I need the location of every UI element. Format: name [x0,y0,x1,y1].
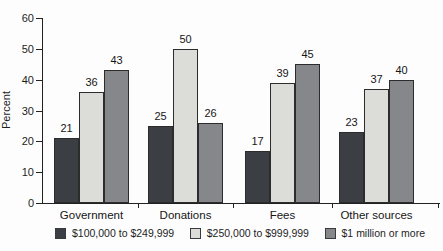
bar [54,138,79,203]
legend: $100,000 to $249,999$250,000 to $999,999… [55,227,425,239]
y-tick [36,172,42,173]
bar [148,126,173,203]
bar-value-label: 26 [194,107,227,120]
bar [173,49,198,203]
x-tick [138,203,139,208]
x-category-label: Other sources [317,209,436,222]
bar [270,83,295,203]
bar-value-label: 45 [291,48,324,61]
bar [245,151,270,203]
legend-label: $100,000 to $249,999 [72,227,174,239]
y-tick [36,111,42,112]
bar-value-label: 43 [100,54,133,67]
y-tick [36,203,42,204]
y-tick [36,18,42,19]
legend-item: $1 million or more [325,227,425,239]
y-tick-label: 60 [8,12,34,24]
bar [339,132,364,203]
bar [104,70,129,203]
y-tick [36,141,42,142]
x-tick [332,203,333,208]
legend-swatch [55,228,66,239]
x-axis-line [42,203,440,204]
y-tick [36,80,42,81]
legend-item: $100,000 to $249,999 [55,227,174,239]
y-axis-line [42,18,43,204]
bar-chart: Percent 0102030405060 213643255026173945… [0,0,443,251]
bar [79,92,104,203]
y-tick-label: 30 [8,105,34,117]
x-tick [233,203,234,208]
y-tick [36,49,42,50]
y-tick-label: 50 [8,43,34,55]
y-tick-label: 40 [8,74,34,86]
bar-value-label: 50 [169,33,202,46]
y-tick-label: 0 [8,197,34,209]
bar [198,123,223,203]
y-tick-label: 20 [8,135,34,147]
bar [295,64,320,203]
legend-label: $1 million or more [342,227,425,239]
bar [389,80,414,203]
legend-swatch [190,228,201,239]
legend-swatch [325,228,336,239]
legend-label: $250,000 to $999,999 [207,227,309,239]
bar-value-label: 40 [385,64,418,77]
y-tick-label: 10 [8,166,34,178]
bar [364,89,389,203]
x-tick [438,203,439,208]
legend-item: $250,000 to $999,999 [190,227,309,239]
